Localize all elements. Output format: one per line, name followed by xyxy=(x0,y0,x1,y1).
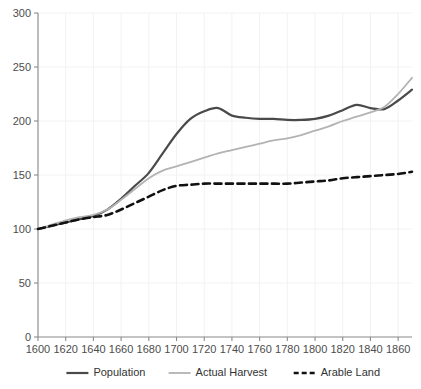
x-tick-label: 1860 xyxy=(386,343,410,355)
legend-label: Actual Harvest xyxy=(196,366,268,378)
x-tick-label: 1720 xyxy=(192,343,216,355)
series-line-actual-harvest xyxy=(38,78,412,229)
gridlines xyxy=(38,13,412,337)
y-tick-label: 200 xyxy=(13,115,31,127)
series-line-population xyxy=(38,90,412,229)
x-tick-label: 1840 xyxy=(358,343,382,355)
x-tick-label: 1780 xyxy=(275,343,299,355)
x-tick-label: 1620 xyxy=(53,343,77,355)
x-axis-ticks: 1600162016401660168017001720174017601780… xyxy=(26,337,411,355)
y-tick-label: 150 xyxy=(13,169,31,181)
y-tick-label: 50 xyxy=(19,277,31,289)
x-tick-label: 1600 xyxy=(26,343,50,355)
y-tick-label: 100 xyxy=(13,223,31,235)
line-chart: 050100150200250300 160016201640166016801… xyxy=(0,0,421,389)
x-tick-label: 1700 xyxy=(164,343,188,355)
y-tick-label: 0 xyxy=(25,331,31,343)
x-tick-label: 1760 xyxy=(247,343,271,355)
chart-legend: PopulationActual HarvestArable Land xyxy=(66,366,380,378)
x-tick-label: 1640 xyxy=(81,343,105,355)
x-tick-label: 1680 xyxy=(137,343,161,355)
chart-figure: 050100150200250300 160016201640166016801… xyxy=(0,0,421,389)
series-line-arable-land xyxy=(38,172,412,229)
x-tick-label: 1740 xyxy=(220,343,244,355)
legend-label: Population xyxy=(93,366,145,378)
y-axis-ticks: 050100150200250300 xyxy=(13,7,38,343)
data-series xyxy=(38,78,412,229)
y-tick-label: 300 xyxy=(13,7,31,19)
y-tick-label: 250 xyxy=(13,61,31,73)
x-tick-label: 1820 xyxy=(330,343,354,355)
x-tick-label: 1660 xyxy=(109,343,133,355)
legend-label: Arable Land xyxy=(321,366,380,378)
x-tick-label: 1800 xyxy=(303,343,327,355)
